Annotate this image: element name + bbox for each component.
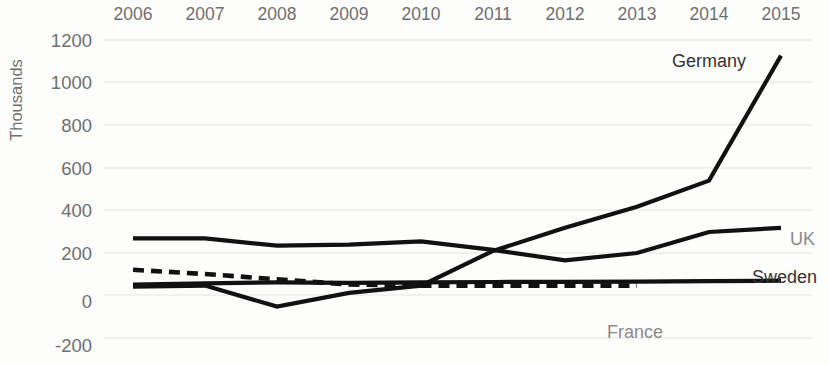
series-line-germany: [133, 56, 781, 307]
ytick-label-600: 600: [61, 158, 92, 179]
ytick-label-minus200: -200: [55, 335, 92, 356]
x-axis-tick-labels: 2006 2007 2008 2009 2010 2011 2012 2013 …: [114, 4, 801, 24]
ytick-label-1200: 1200: [51, 30, 92, 51]
xtick-label-2006: 2006: [114, 4, 153, 24]
series-lines: [133, 56, 781, 307]
ytick-label-200: 200: [61, 243, 92, 264]
ytick-label-1000: 1000: [51, 72, 92, 93]
series-label-france: France: [607, 322, 663, 342]
xtick-label-2011: 2011: [474, 4, 512, 24]
series-line-uk: [133, 228, 781, 261]
xtick-label-2007: 2007: [186, 4, 225, 24]
xtick-label-2013: 2013: [618, 4, 657, 24]
y-axis-title: Thousands: [7, 59, 25, 141]
series-label-sweden: Sweden: [752, 267, 817, 287]
ytick-label-0: 0: [82, 291, 92, 312]
line-chart: 1200 1000 800 600 400 200 0 -200 Thousan…: [0, 0, 829, 365]
xtick-label-2015: 2015: [762, 4, 801, 24]
ytick-label-800: 800: [61, 115, 92, 136]
xtick-label-2014: 2014: [690, 4, 729, 24]
gridlines: [104, 40, 812, 338]
xtick-label-2008: 2008: [258, 4, 297, 24]
series-labels: Germany UK Sweden France: [607, 51, 817, 342]
y-axis-tick-labels: 1200 1000 800 600 400 200 0 -200: [51, 30, 92, 356]
series-label-uk: UK: [790, 229, 815, 249]
xtick-label-2010: 2010: [402, 4, 441, 24]
y-axis-title-group: Thousands: [7, 59, 25, 141]
ytick-label-400: 400: [61, 200, 92, 221]
chart-canvas: 1200 1000 800 600 400 200 0 -200 Thousan…: [0, 0, 829, 365]
xtick-label-2009: 2009: [330, 4, 369, 24]
xtick-label-2012: 2012: [546, 4, 585, 24]
series-label-germany: Germany: [672, 51, 746, 71]
